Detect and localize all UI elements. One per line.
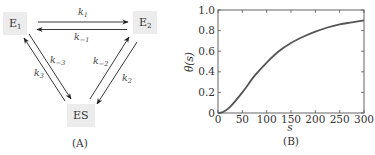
panel-b-label: (B) [283, 135, 299, 147]
x-tick-label: 250 [330, 113, 350, 125]
y-axis-label: θ(s) [183, 52, 195, 72]
rate-k-1-label: k−1 [74, 31, 89, 44]
rate-k-3-label: k−3 [50, 54, 65, 67]
arrow-k2 [97, 42, 137, 104]
panel-a-reaction-diagram: E1 E2 ES k1 k−1 k−3 k3 k−2 k2 (A) [3, 6, 157, 149]
node-e2-label: E [139, 16, 147, 29]
node-es: ES [67, 104, 95, 127]
node-e2: E2 [133, 11, 157, 34]
y-tick-label: 0.2 [198, 86, 215, 98]
x-tick-label: 200 [305, 113, 325, 125]
x-tick-label: 100 [257, 113, 277, 125]
x-tick-label: 0 [215, 113, 222, 125]
node-e1-label: E [9, 17, 17, 30]
node-e1: E1 [3, 12, 27, 35]
x-axis-label: s [287, 121, 293, 133]
y-tick-label: 0.4 [198, 65, 215, 77]
arrow-k3 [24, 38, 65, 101]
plot-frame [218, 10, 364, 113]
rate-k3-label: k3 [34, 67, 44, 80]
y-tick-label: 0.8 [198, 24, 215, 36]
y-tick-label: 1.0 [198, 4, 215, 16]
node-es-label: ES [73, 109, 89, 122]
x-tick-label: 50 [236, 113, 249, 125]
axis-ticks [218, 10, 364, 113]
arrow-k-2 [90, 37, 129, 99]
y-tick-label: 0 [208, 107, 215, 119]
y-tick-label: 0.6 [198, 45, 215, 57]
node-e2-sub: 2 [147, 22, 151, 30]
figure: E1 E2 ES k1 k−1 k−3 k3 k−2 k2 (A) 0501 [0, 0, 375, 155]
rate-k1-label: k1 [78, 6, 88, 19]
x-tick-label: 300 [354, 113, 374, 125]
rate-k2-label: k2 [122, 72, 132, 85]
rate-k-2-label: k−2 [93, 55, 108, 68]
panel-b-chart: 050100150200250300 00.20.40.60.81.0 s θ(… [183, 4, 374, 148]
theta-curve [218, 20, 364, 113]
node-e1-sub: 1 [17, 23, 21, 31]
x-tick-labels: 050100150200250300 [215, 113, 374, 125]
y-tick-labels: 00.20.40.60.81.0 [198, 4, 215, 119]
panel-a-label: (A) [72, 137, 88, 149]
